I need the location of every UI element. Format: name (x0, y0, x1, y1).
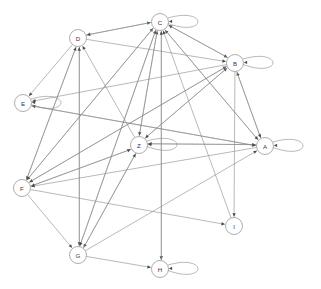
graph-edge (145, 68, 227, 138)
graph-node-e[interactable]: E (15, 95, 32, 112)
node-circle[interactable] (227, 55, 244, 72)
graph-canvas: CDBEZAFIGH (0, 0, 321, 289)
graph-edge (27, 195, 72, 248)
graph-edge (138, 30, 157, 135)
graph-edge (272, 139, 302, 151)
graph-edge (148, 142, 256, 145)
graph-edge (167, 262, 197, 274)
graph-node-d[interactable]: D (70, 30, 87, 47)
graph-edge (30, 149, 130, 186)
graph-node-a[interactable]: A (257, 138, 274, 155)
graph-edge (86, 256, 150, 268)
graph-edge (160, 31, 163, 260)
node-circle[interactable] (226, 218, 243, 235)
graph-node-z[interactable]: Z (131, 137, 148, 154)
node-circle[interactable] (152, 261, 169, 278)
graph-edge (163, 31, 231, 218)
node-circle[interactable] (70, 247, 87, 264)
graph-edge (242, 56, 272, 68)
graph-node-g[interactable]: G (70, 247, 87, 264)
graph-edge (87, 22, 152, 36)
graph-node-i[interactable]: I (226, 218, 243, 235)
node-circle[interactable] (70, 30, 87, 47)
graph-edge (85, 151, 257, 251)
graph-edge (29, 44, 73, 95)
graph-edge (27, 28, 154, 180)
graph-edge (30, 190, 224, 226)
node-circle[interactable] (257, 138, 274, 155)
graph-edge (31, 147, 256, 187)
graph-edge (165, 29, 259, 139)
graph-edge (79, 30, 156, 246)
graph-edge (78, 47, 81, 246)
graph-edge (232, 72, 235, 217)
graph-node-f[interactable]: F (14, 180, 31, 197)
graph-edge (83, 154, 135, 248)
graph-edge (169, 25, 228, 57)
graph-node-c[interactable]: C (152, 14, 169, 31)
node-circle[interactable] (152, 14, 169, 31)
node-circle[interactable] (15, 95, 32, 112)
node-circle[interactable] (131, 137, 148, 154)
graph-node-b[interactable]: B (227, 55, 244, 72)
node-circle[interactable] (14, 180, 31, 197)
graph-edge (26, 47, 76, 180)
graph-edge (86, 39, 225, 62)
graph-svg: CDBEZAFIGH (0, 0, 321, 289)
graph-node-h[interactable]: H (152, 261, 169, 278)
graph-edge (237, 71, 261, 137)
